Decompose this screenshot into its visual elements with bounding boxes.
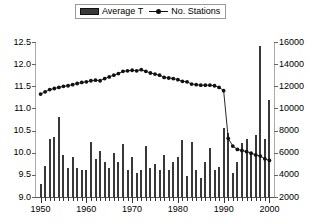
line-path [41,70,270,161]
line-marker [116,72,120,76]
line-marker [107,75,111,79]
line-marker [254,153,258,157]
line-marker [135,69,139,73]
line-marker [181,79,185,83]
line-marker [245,150,249,154]
line-marker [167,76,171,80]
line-marker [80,81,84,85]
line-marker [208,83,212,87]
line-marker [217,85,221,89]
line-marker [48,88,52,92]
line-marker [203,83,207,87]
line-marker [84,80,88,84]
line-marker [52,87,56,91]
line-marker [57,85,61,89]
line-marker [39,92,43,96]
line-marker [149,71,153,75]
line-marker [231,144,235,148]
line-marker [213,84,217,88]
line-marker [89,79,93,83]
line-marker [71,83,75,87]
line-marker [240,149,244,153]
line-marker [62,84,66,88]
line-marker [194,83,198,87]
line-marker [199,83,203,87]
line-marker [126,69,130,73]
line-marker [263,157,267,161]
line-marker [249,151,253,155]
line-marker [162,76,166,80]
line-marker [144,69,148,73]
line-marker [190,82,194,86]
line-marker [171,77,175,81]
line-marker [103,77,107,81]
line-marker [75,82,79,86]
line-marker [98,79,102,83]
line-marker [121,69,125,73]
line-marker [130,68,134,72]
line-marker [66,84,70,88]
line-marker [226,136,230,140]
line-marker [139,68,143,72]
line-marker [43,90,47,94]
line-marker [153,72,157,76]
line-marker [185,80,189,84]
line-marker [176,78,180,82]
line-marker [268,159,272,163]
line-marker [158,73,162,77]
line-marker [94,78,98,82]
line-marker [235,147,239,151]
line-marker [112,73,116,77]
line-marker [222,89,226,93]
line-series-no-stations [0,0,311,224]
chart-root: Average T No. Stations 9.09.510.010.511.… [0,0,311,224]
line-marker [258,154,262,158]
